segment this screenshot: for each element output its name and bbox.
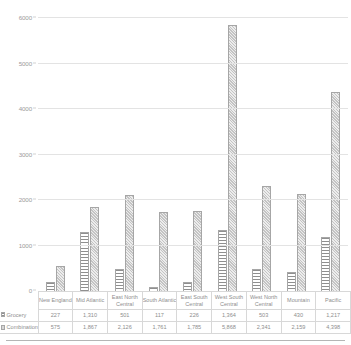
y-tick-label: 2000 <box>19 196 32 203</box>
bar <box>252 269 261 292</box>
y-tick-mark <box>33 244 36 245</box>
bar <box>331 92 340 292</box>
y-axis: 0100020003000400050006000 <box>0 0 36 292</box>
table-cell: 1,364 <box>212 310 247 322</box>
bar-group <box>141 0 175 292</box>
bar <box>218 230 227 292</box>
table-cell: 430 <box>281 310 316 322</box>
y-tick-label: 6000 <box>19 14 32 21</box>
legend-label: Grocery <box>7 312 27 318</box>
bar <box>228 25 237 292</box>
gridline <box>38 63 348 64</box>
legend-swatch-icon <box>1 325 5 330</box>
table-column-header: East South Central <box>177 292 212 310</box>
bottom-divider <box>6 340 345 341</box>
table-header-row: New EnglandMid AtlanticEast North Centra… <box>0 292 351 310</box>
bar <box>287 272 296 292</box>
table-cell: 2,341 <box>246 322 281 334</box>
bar <box>80 232 89 292</box>
table-cell: 1,217 <box>316 310 351 322</box>
gridline <box>38 245 348 246</box>
table-cell: 2,159 <box>281 322 316 334</box>
bar <box>262 186 271 293</box>
bar-group <box>38 0 72 292</box>
table-row: Grocery2271,3105011172261,3645034301,217 <box>0 310 351 322</box>
table-cell: 1,785 <box>177 322 212 334</box>
table-cell: 501 <box>107 310 142 322</box>
bar-group <box>176 0 210 292</box>
table-cell: 227 <box>38 310 73 322</box>
bar-group <box>245 0 279 292</box>
table-cell: 1,310 <box>73 310 108 322</box>
y-tick-mark <box>33 108 36 109</box>
bar-group <box>72 0 106 292</box>
legend-item-combination: Combination <box>0 322 38 334</box>
y-tick-mark <box>33 199 36 200</box>
gridline <box>38 154 348 155</box>
table-cell: 575 <box>38 322 73 334</box>
bar <box>297 194 306 292</box>
table-row: Combination5751,8672,1261,7611,7855,8682… <box>0 322 351 334</box>
table-column-header: West South Central <box>212 292 247 310</box>
plot-wrapper: 0100020003000400050006000 <box>0 0 351 292</box>
table-cell: 1,761 <box>142 322 177 334</box>
table-column-header: South Atlantic <box>142 292 177 310</box>
y-tick-label: 1000 <box>19 241 32 248</box>
legend-label: Combination <box>7 324 38 330</box>
gridline <box>38 108 348 109</box>
table-cell: 117 <box>142 310 177 322</box>
y-tick-label: 3000 <box>19 150 32 157</box>
plot-area <box>38 0 348 292</box>
bar <box>115 269 124 292</box>
y-tick-label: 5000 <box>19 59 32 66</box>
bar-group <box>314 0 348 292</box>
legend-item-grocery: Grocery <box>0 310 38 322</box>
table-column-header: West North Central <box>246 292 281 310</box>
y-tick-mark <box>33 17 36 18</box>
bar <box>90 207 99 292</box>
gridline <box>38 17 348 18</box>
y-tick-label: 4000 <box>19 105 32 112</box>
table-column-header: Mid Atlantic <box>73 292 108 310</box>
table-column-header: Mountain <box>281 292 316 310</box>
bar-group <box>107 0 141 292</box>
gridline <box>38 199 348 200</box>
table-cell: 226 <box>177 310 212 322</box>
bar-chart: 0100020003000400050006000 New EnglandMid… <box>0 0 351 345</box>
bar <box>159 212 168 292</box>
table-column-header: New England <box>38 292 73 310</box>
bar <box>56 266 65 292</box>
table-column-header: Pacific <box>316 292 351 310</box>
y-tick-mark <box>33 153 36 154</box>
data-table-body: New EnglandMid AtlanticEast North Centra… <box>0 292 351 334</box>
table-corner-cell <box>0 292 38 310</box>
table-cell: 503 <box>246 310 281 322</box>
bar-group <box>279 0 313 292</box>
bar-groups <box>38 0 348 292</box>
legend-swatch-icon <box>1 312 5 317</box>
table-cell: 5,868 <box>212 322 247 334</box>
table-column-header: East North Central <box>107 292 142 310</box>
table-cell: 4,398 <box>316 322 351 334</box>
bar-group <box>210 0 244 292</box>
chart-data-table: New EnglandMid AtlanticEast North Centra… <box>0 291 351 334</box>
table-cell: 1,867 <box>73 322 108 334</box>
table-cell: 2,126 <box>107 322 142 334</box>
bar <box>193 211 202 292</box>
y-tick-mark <box>33 62 36 63</box>
